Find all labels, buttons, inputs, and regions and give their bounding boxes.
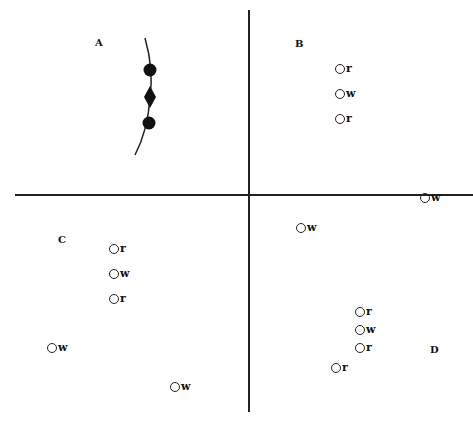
point-label: r xyxy=(342,361,348,375)
data-point: w xyxy=(47,341,67,355)
data-point: r xyxy=(109,242,126,256)
point-label: w xyxy=(58,341,67,355)
open-circle-icon xyxy=(335,89,345,99)
point-label: w xyxy=(120,267,129,281)
point-label: r xyxy=(120,292,126,306)
point-label: w xyxy=(307,221,316,235)
open-circle-icon xyxy=(296,223,306,233)
open-circle-icon xyxy=(170,382,180,392)
filled-circle-icon xyxy=(144,64,157,77)
data-point: r xyxy=(335,112,352,126)
open-circle-icon xyxy=(109,294,119,304)
data-point: r xyxy=(355,305,372,319)
point-label: r xyxy=(366,341,372,355)
open-circle-icon xyxy=(420,193,430,203)
point-label: r xyxy=(346,62,352,76)
data-point: r xyxy=(109,292,126,306)
quadrant-label-d: D xyxy=(430,344,439,355)
data-point: w xyxy=(355,323,375,337)
data-point: r xyxy=(355,341,372,355)
quadrant-label-b: B xyxy=(295,38,303,49)
chain-a-graphic xyxy=(0,0,473,423)
data-point: r xyxy=(335,62,352,76)
open-circle-icon xyxy=(331,363,341,373)
data-point: w xyxy=(420,191,440,205)
data-point: r xyxy=(331,361,348,375)
filled-circle-icon xyxy=(143,117,156,130)
quadrant-label-c: C xyxy=(58,234,66,245)
data-point: w xyxy=(296,221,316,235)
open-circle-icon xyxy=(335,114,345,124)
open-circle-icon xyxy=(47,343,57,353)
data-point: w xyxy=(170,380,190,394)
data-point: w xyxy=(109,267,129,281)
open-circle-icon xyxy=(355,343,365,353)
quadrant-label-a: A xyxy=(95,37,103,48)
point-label: w xyxy=(431,191,440,205)
point-label: w xyxy=(346,87,355,101)
open-circle-icon xyxy=(355,307,365,317)
point-label: r xyxy=(366,305,372,319)
open-circle-icon xyxy=(335,64,345,74)
data-point: w xyxy=(335,87,355,101)
filled-diamond-icon xyxy=(144,86,156,108)
open-circle-icon xyxy=(109,244,119,254)
diagram-canvas: A B C D rwrwwrwrrwrrww xyxy=(0,0,473,423)
open-circle-icon xyxy=(109,269,119,279)
point-label: r xyxy=(120,242,126,256)
open-circle-icon xyxy=(355,325,365,335)
point-label: w xyxy=(366,323,375,337)
point-label: r xyxy=(346,112,352,126)
point-label: w xyxy=(181,380,190,394)
